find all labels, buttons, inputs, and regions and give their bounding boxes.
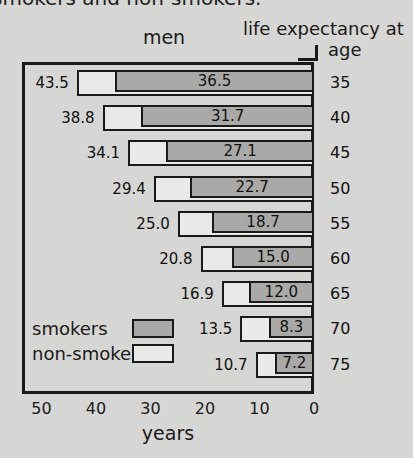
elbow-connector-icon <box>298 45 318 61</box>
bar-non-smokers: 31.7 <box>103 105 314 131</box>
legend-swatch-non-smokers <box>132 344 174 363</box>
x-tick-label: 10 <box>249 399 269 418</box>
bar-non-smokers: 7.2 <box>256 352 314 378</box>
smoker-value-label: 18.7 <box>214 214 312 229</box>
age-label: 40 <box>330 110 350 126</box>
chart-legend: smokers non-smokers <box>32 316 192 366</box>
age-label: 70 <box>330 321 350 337</box>
legend-label-smokers: smokers <box>32 318 108 339</box>
non-smoker-value-label: 38.8 <box>41 111 95 126</box>
age-label: 55 <box>330 216 350 232</box>
bar-smokers: 7.2 <box>275 352 314 374</box>
age-label: 35 <box>330 75 350 91</box>
legend-item-non-smokers: non-smokers <box>32 341 192 366</box>
bar-row: 34.127.145 <box>0 140 413 166</box>
bar-row: 16.912.065 <box>0 281 413 307</box>
bar-non-smokers: 36.5 <box>77 70 314 96</box>
bar-smokers: 18.7 <box>212 211 314 233</box>
caption-text: smokers and non-smokers. <box>0 0 261 10</box>
x-axis-title: years <box>0 422 336 444</box>
smoker-value-label: 22.7 <box>192 179 312 194</box>
smoker-value-label: 12.0 <box>251 285 312 300</box>
bar-row: 43.536.535 <box>0 70 413 96</box>
x-tick-label: 40 <box>86 399 106 418</box>
age-label: 60 <box>330 251 350 267</box>
x-tick-label: 0 <box>309 399 319 418</box>
smoker-value-label: 8.3 <box>271 320 312 335</box>
bar-non-smokers: 8.3 <box>240 316 314 342</box>
non-smoker-value-label: 25.0 <box>116 216 170 231</box>
smoker-value-label: 7.2 <box>277 355 312 370</box>
smoker-value-label: 36.5 <box>117 74 312 89</box>
caption-clip: smokers and non-smokers. <box>0 0 413 16</box>
age-axis-label: age <box>328 39 362 60</box>
x-tick-label: 30 <box>140 399 160 418</box>
age-label: 45 <box>330 145 350 161</box>
group-label-men: men <box>118 26 210 48</box>
life-expectancy-label: life expectancy at <box>243 18 413 39</box>
legend-swatch-smokers <box>132 319 174 338</box>
age-label: 50 <box>330 181 350 197</box>
bar-non-smokers: 12.0 <box>222 281 314 307</box>
bar-non-smokers: 22.7 <box>154 176 314 202</box>
bar-smokers: 8.3 <box>269 316 314 338</box>
bar-row: 25.018.755 <box>0 211 413 237</box>
legend-label-non-smokers: non-smokers <box>32 343 148 364</box>
bar-non-smokers: 18.7 <box>178 211 314 237</box>
x-tick-label: 50 <box>31 399 51 418</box>
bar-smokers: 15.0 <box>232 246 314 268</box>
non-smoker-value-label: 10.7 <box>194 357 248 372</box>
non-smoker-value-label: 43.5 <box>15 76 69 91</box>
legend-item-smokers: smokers <box>32 316 192 341</box>
non-smoker-value-label: 34.1 <box>66 146 120 161</box>
non-smoker-value-label: 20.8 <box>139 252 193 267</box>
bar-row: 38.831.740 <box>0 105 413 131</box>
bar-row: 29.422.750 <box>0 176 413 202</box>
bar-smokers: 22.7 <box>190 176 314 198</box>
smoker-value-label: 31.7 <box>143 109 312 124</box>
bar-smokers: 31.7 <box>141 105 314 127</box>
non-smoker-value-label: 16.9 <box>160 287 214 302</box>
non-smoker-value-label: 29.4 <box>92 181 146 196</box>
x-tick-label: 20 <box>195 399 215 418</box>
smoker-value-label: 15.0 <box>234 250 312 265</box>
bar-smokers: 27.1 <box>166 140 314 162</box>
bar-smokers: 12.0 <box>249 281 314 303</box>
bar-row: 20.815.060 <box>0 246 413 272</box>
age-label: 65 <box>330 286 350 302</box>
bar-non-smokers: 27.1 <box>128 140 314 166</box>
bar-non-smokers: 15.0 <box>201 246 314 272</box>
age-label: 75 <box>330 357 350 373</box>
smoker-value-label: 27.1 <box>168 144 312 159</box>
bar-smokers: 36.5 <box>115 70 314 92</box>
